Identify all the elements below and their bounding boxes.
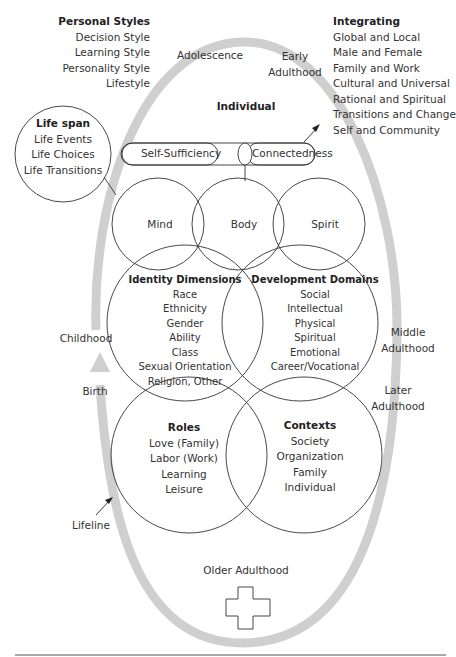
self-sufficiency-label: Self-Sufficiency <box>124 146 238 162</box>
pill-link-ellipse <box>238 143 252 165</box>
life-span-block: Life span Life Events Life Choices Life … <box>15 116 111 178</box>
integrating-item: Family and Work <box>333 61 456 77</box>
development-item: Emotional <box>250 346 380 361</box>
life-span-item: Life Events <box>15 132 111 148</box>
roles-item: Learning <box>134 467 234 483</box>
development-item: Intellectual <box>250 302 380 317</box>
personal-styles-block: Personal Styles Decision Style Learning … <box>58 14 150 92</box>
integrating-item: Cultural and Universal <box>333 76 456 92</box>
development-item: Physical <box>250 317 380 332</box>
contexts-item: Society <box>260 434 360 450</box>
stage-birth: Birth <box>80 384 110 400</box>
identity-item: Sexual Orientation <box>120 360 250 375</box>
lifeline-label: Lifeline <box>68 518 114 534</box>
identity-item: Race <box>120 288 250 303</box>
life-span-title: Life span <box>15 116 111 132</box>
roles-item: Leisure <box>134 482 234 498</box>
identity-dimensions-title: Identity Dimensions <box>120 273 250 288</box>
contexts-item: Family <box>260 465 360 481</box>
stage-adolescence: Adolescence <box>175 48 245 64</box>
personal-styles-title: Personal Styles <box>58 14 150 30</box>
stage-older-adulthood: Older Adulthood <box>196 563 296 579</box>
stage-middle-adulthood-line1: Middle <box>375 325 441 341</box>
integrating-item: Global and Local <box>333 30 456 46</box>
stage-later-adulthood: Later Adulthood <box>365 383 431 414</box>
integrating-item: Transitions and Change <box>333 107 456 123</box>
cross-icon <box>226 587 270 629</box>
stage-middle-adulthood-line2: Adulthood <box>375 341 441 357</box>
roles-block: Roles Love (Family) Labor (Work) Learnin… <box>134 420 234 498</box>
integrating-item: Rational and Spiritual <box>333 92 456 108</box>
contexts-item: Individual <box>260 480 360 496</box>
stage-early-adulthood-line1: Early <box>265 49 325 65</box>
connectedness-arrow-icon <box>312 124 320 132</box>
development-domains-block: Development Domains Social Intellectual … <box>250 273 380 375</box>
integrating-block: Integrating Global and Local Male and Fe… <box>333 14 456 138</box>
life-span-item: Life Transitions <box>15 163 111 179</box>
spirit-label: Spirit <box>300 217 350 233</box>
stage-early-adulthood-line2: Adulthood <box>265 65 325 81</box>
identity-dimensions-block: Identity Dimensions Race Ethnicity Gende… <box>120 273 250 389</box>
integrating-item: Self and Community <box>333 123 456 139</box>
identity-item: Class <box>120 346 250 361</box>
lifeline-arrowhead-icon <box>90 352 110 372</box>
individual-title: Individual <box>196 99 296 115</box>
integrating-title: Integrating <box>333 14 456 30</box>
contexts-block: Contexts Society Organization Family Ind… <box>260 418 360 496</box>
body-label: Body <box>219 217 269 233</box>
roles-item: Love (Family) <box>134 436 234 452</box>
connectedness-label: Connectedness <box>252 146 314 162</box>
roles-title: Roles <box>134 420 234 436</box>
life-span-item: Life Choices <box>15 147 111 163</box>
stage-childhood: Childhood <box>58 331 114 347</box>
integrating-item: Male and Female <box>333 45 456 61</box>
mind-label: Mind <box>135 217 185 233</box>
roles-item: Labor (Work) <box>134 451 234 467</box>
stage-later-adulthood-line2: Adulthood <box>365 399 431 415</box>
identity-item: Ability <box>120 331 250 346</box>
development-item: Social <box>250 288 380 303</box>
stage-early-adulthood: Early Adulthood <box>265 49 325 80</box>
personal-style-item: Personality Style <box>58 61 150 77</box>
contexts-title: Contexts <box>260 418 360 434</box>
development-item: Spiritual <box>250 331 380 346</box>
development-item: Career/Vocational <box>250 360 380 375</box>
identity-item: Religion, Other <box>120 375 250 390</box>
stage-later-adulthood-line1: Later <box>365 383 431 399</box>
personal-style-item: Learning Style <box>58 45 150 61</box>
stage-middle-adulthood: Middle Adulthood <box>375 325 441 356</box>
development-domains-title: Development Domains <box>250 273 380 288</box>
identity-item: Gender <box>120 317 250 332</box>
personal-style-item: Lifestyle <box>58 76 150 92</box>
personal-style-item: Decision Style <box>58 30 150 46</box>
identity-item: Ethnicity <box>120 302 250 317</box>
contexts-item: Organization <box>260 449 360 465</box>
